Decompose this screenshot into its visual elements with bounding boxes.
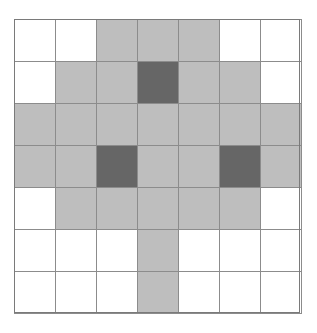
grid-body [15,20,302,314]
grid-cell-r4-c6[interactable] [220,146,261,188]
grid-cell-r6-c3[interactable] [97,230,138,272]
grid-cell-r7-c1[interactable] [15,272,56,314]
grid-cell-r5-c5[interactable] [179,188,220,230]
grid-cell-r4-c4[interactable] [138,146,179,188]
grid-row [15,272,302,314]
grid-cell-r3-c1[interactable] [15,104,56,146]
grid-cell-r7-c3[interactable] [97,272,138,314]
grid-row [15,104,302,146]
grid-cell-r4-c5[interactable] [179,146,220,188]
grid-cell-r1-c2[interactable] [56,20,97,62]
grid-cell-r1-c6[interactable] [220,20,261,62]
grid-cell-r3-c2[interactable] [56,104,97,146]
grid-cell-r7-c2[interactable] [56,272,97,314]
grid-cell-r1-c3[interactable] [97,20,138,62]
grid-row [15,188,302,230]
grid-cell-r3-c3[interactable] [97,104,138,146]
grid-cell-r1-c5[interactable] [179,20,220,62]
grid-cell-r4-c7[interactable] [261,146,302,188]
grid-cell-r5-c2[interactable] [56,188,97,230]
grid-cell-r6-c2[interactable] [56,230,97,272]
grid-cell-r1-c1[interactable] [15,20,56,62]
grid-cell-r5-c1[interactable] [15,188,56,230]
grid-matrix [14,19,302,314]
grid-cell-r3-c7[interactable] [261,104,302,146]
grid-cell-r2-c4[interactable] [138,62,179,104]
grid-row [15,146,302,188]
grid-cell-r5-c7[interactable] [261,188,302,230]
grid-cell-r6-c1[interactable] [15,230,56,272]
grid-cell-r2-c1[interactable] [15,62,56,104]
grid-cell-r3-c6[interactable] [220,104,261,146]
grid-cell-r5-c6[interactable] [220,188,261,230]
grid-cell-r2-c5[interactable] [179,62,220,104]
grid-cell-r7-c5[interactable] [179,272,220,314]
grid-cell-r6-c6[interactable] [220,230,261,272]
grid-cell-r4-c1[interactable] [15,146,56,188]
grid-cell-r2-c7[interactable] [261,62,302,104]
grid-cell-r7-c4[interactable] [138,272,179,314]
grid-cell-r5-c3[interactable] [97,188,138,230]
grid-cell-r6-c5[interactable] [179,230,220,272]
grid-figure [14,19,300,313]
grid-cell-r2-c3[interactable] [97,62,138,104]
grid-cell-r3-c5[interactable] [179,104,220,146]
grid-cell-r5-c4[interactable] [138,188,179,230]
grid-cell-r6-c7[interactable] [261,230,302,272]
grid-cell-r3-c4[interactable] [138,104,179,146]
grid-row [15,62,302,104]
grid-cell-r2-c2[interactable] [56,62,97,104]
grid-cell-r4-c3[interactable] [97,146,138,188]
grid-cell-r7-c7[interactable] [261,272,302,314]
grid-row [15,230,302,272]
grid-cell-r1-c4[interactable] [138,20,179,62]
grid-cell-r6-c4[interactable] [138,230,179,272]
grid-cell-r1-c7[interactable] [261,20,302,62]
grid-row [15,20,302,62]
grid-cell-r4-c2[interactable] [56,146,97,188]
grid-cell-r7-c6[interactable] [220,272,261,314]
grid-cell-r2-c6[interactable] [220,62,261,104]
